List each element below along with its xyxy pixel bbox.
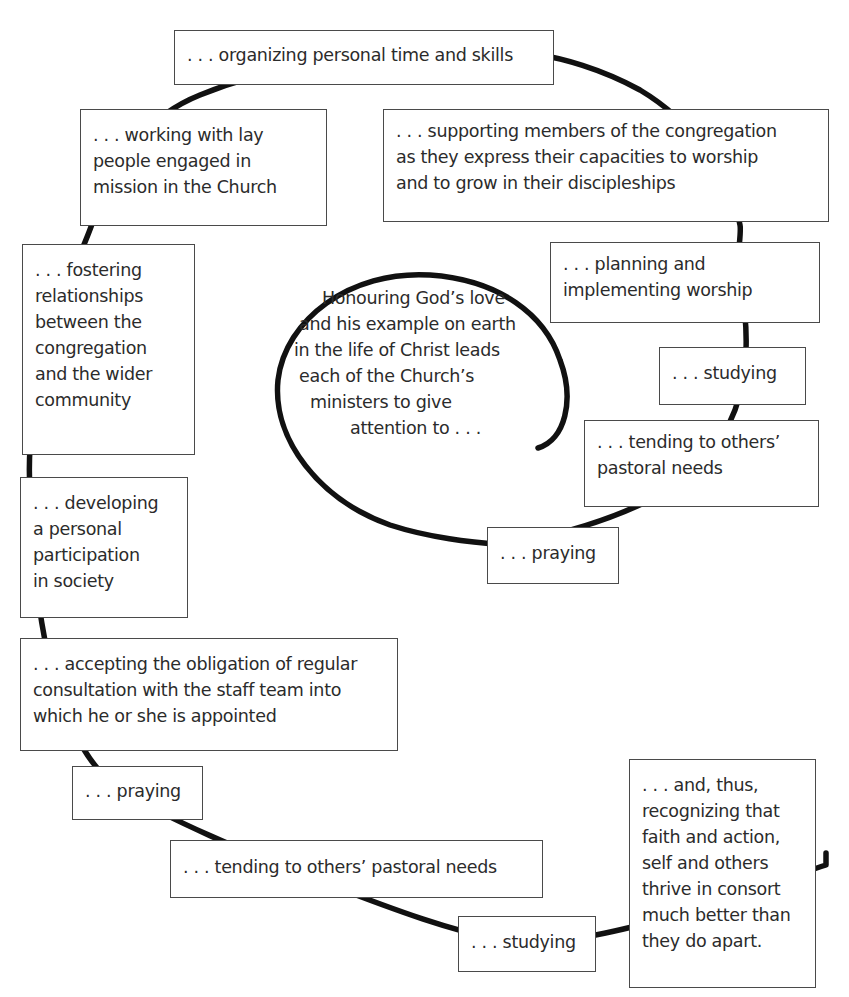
box-text: . . . studying bbox=[471, 929, 583, 955]
box-accepting-obligation: . . . accepting the obligation of regula… bbox=[20, 638, 398, 751]
box-text: congregation bbox=[35, 335, 182, 361]
box-working-lay-people: . . . working with lay people engaged in… bbox=[80, 109, 327, 226]
box-text: community bbox=[35, 387, 182, 413]
box-text: as they express their capacities to wors… bbox=[396, 144, 816, 170]
box-text: thrive in consort bbox=[642, 876, 803, 902]
box-developing-participation: . . . developing a personal participatio… bbox=[20, 477, 188, 618]
box-organizing-time: . . . organizing personal time and skill… bbox=[174, 30, 554, 85]
center-line: ministers to give bbox=[310, 390, 452, 415]
box-praying-outer: . . . praying bbox=[72, 766, 203, 820]
box-text: . . . tending to others’ pastoral needs bbox=[183, 854, 530, 880]
box-supporting-members: . . . supporting members of the congrega… bbox=[383, 109, 829, 222]
box-text: they do apart. bbox=[642, 928, 803, 954]
box-praying-inner: . . . praying bbox=[487, 527, 619, 584]
box-text: recognizing that bbox=[642, 798, 803, 824]
box-text: participation bbox=[33, 542, 175, 568]
box-text: and to grow in their discipleships bbox=[396, 170, 816, 196]
box-text: pastoral needs bbox=[597, 455, 806, 481]
box-text: people engaged in bbox=[93, 148, 314, 174]
box-recognizing-faith-action: . . . and, thus, recognizing that faith … bbox=[629, 759, 816, 988]
box-text: faith and action, bbox=[642, 824, 803, 850]
box-text: in society bbox=[33, 568, 175, 594]
box-planning-worship: . . . planning and implementing worship bbox=[550, 242, 820, 323]
center-line: attention to . . . bbox=[350, 416, 481, 441]
box-text: . . . praying bbox=[500, 540, 606, 566]
box-studying-inner: . . . studying bbox=[659, 347, 806, 405]
box-text: . . . developing bbox=[33, 490, 175, 516]
box-fostering-relationships: . . . fostering relationships between th… bbox=[22, 244, 195, 455]
center-line: each of the Church’s bbox=[299, 364, 474, 389]
box-text: which he or she is appointed bbox=[33, 703, 385, 729]
box-text: . . . studying bbox=[672, 360, 793, 386]
box-text: implementing worship bbox=[563, 277, 807, 303]
box-text: . . . and, thus, bbox=[642, 772, 803, 798]
box-text: consultation with the staff team into bbox=[33, 677, 385, 703]
center-line: and his example on earth bbox=[299, 312, 516, 337]
box-text: mission in the Church bbox=[93, 174, 314, 200]
box-text: . . . organizing personal time and skill… bbox=[187, 42, 541, 68]
box-studying-outer: . . . studying bbox=[458, 916, 596, 972]
center-line: Honouring God’s love bbox=[322, 286, 505, 311]
box-text: . . . accepting the obligation of regula… bbox=[33, 651, 385, 677]
box-tending-outer: . . . tending to others’ pastoral needs bbox=[170, 840, 543, 898]
box-text: . . . fostering bbox=[35, 257, 182, 283]
box-text: and the wider bbox=[35, 361, 182, 387]
box-text: . . . praying bbox=[85, 778, 190, 804]
box-text: self and others bbox=[642, 850, 803, 876]
center-line: in the life of Christ leads bbox=[294, 338, 500, 363]
box-text: . . . working with lay bbox=[93, 122, 314, 148]
box-text: relationships bbox=[35, 283, 182, 309]
box-text: between the bbox=[35, 309, 182, 335]
box-text: . . . supporting members of the congrega… bbox=[396, 118, 816, 144]
box-tending-inner: . . . tending to others’ pastoral needs bbox=[584, 420, 819, 507]
box-text: much better than bbox=[642, 902, 803, 928]
box-text: . . . tending to others’ bbox=[597, 429, 806, 455]
box-text: . . . planning and bbox=[563, 251, 807, 277]
box-text: a personal bbox=[33, 516, 175, 542]
